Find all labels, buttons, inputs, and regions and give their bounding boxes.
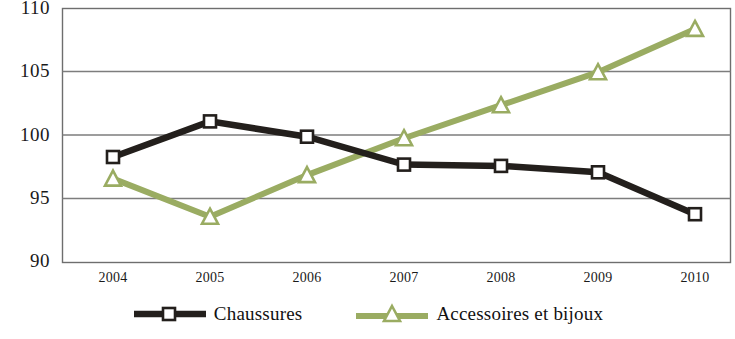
x-axis-tick-2010: 2010: [660, 270, 730, 286]
marker-2007: [398, 159, 410, 171]
x-axis-tick-2005: 2005: [175, 270, 245, 286]
legend-label-accessoires-et-bijoux: Accessoires et bijoux: [436, 303, 603, 325]
x-axis-tick-2007: 2007: [369, 270, 439, 286]
marker-2010: [689, 208, 701, 220]
legend-item-chaussures: Chaussures: [132, 303, 303, 325]
marker-2006: [301, 131, 313, 143]
marker-2008: [495, 160, 507, 172]
x-axis-tick-2009: 2009: [563, 270, 633, 286]
marker-2009: [592, 166, 604, 178]
legend-label-chaussures: Chaussures: [214, 303, 303, 325]
chart-legend: Chaussures Accessoires et bijoux: [0, 303, 735, 325]
marker-2005: [204, 115, 216, 127]
x-axis-tick-2004: 2004: [78, 270, 148, 286]
marker-2004: [107, 151, 119, 163]
x-axis-tick-2006: 2006: [272, 270, 342, 286]
x-axis-tick-2008: 2008: [466, 270, 536, 286]
plot-area: [0, 0, 735, 300]
line-chart: 110 105 100 95 90: [0, 0, 735, 339]
triangle-marker-icon: [354, 303, 430, 325]
square-marker-icon: [132, 303, 208, 325]
legend-item-accessoires-et-bijoux: Accessoires et bijoux: [354, 303, 603, 325]
